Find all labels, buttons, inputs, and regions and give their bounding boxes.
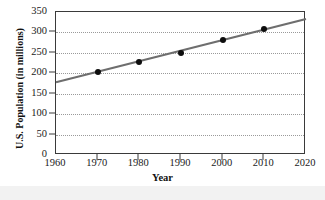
y-tick-label-200: 200	[31, 67, 47, 78]
x-tick-mark-1980	[138, 154, 139, 160]
x-tick-mark-2000	[221, 154, 222, 160]
y-axis: 050100150200250300350	[0, 0, 55, 200]
data-point	[261, 26, 267, 32]
plot-area	[55, 11, 305, 154]
data-point	[136, 59, 142, 65]
x-tick-mark-1970	[96, 154, 97, 160]
data-point	[95, 69, 101, 75]
bottom-band	[0, 186, 325, 200]
y-tick-label-250: 250	[31, 47, 47, 58]
x-axis-title: Year	[0, 172, 325, 183]
y-tick-label-100: 100	[31, 108, 47, 119]
y-tick-label-350: 350	[31, 6, 47, 17]
y-tick-label-50: 50	[37, 128, 48, 139]
x-tick-label-1960: 1960	[45, 157, 66, 168]
x-tick-mark-2010	[263, 154, 264, 160]
y-tick-label-300: 300	[31, 26, 47, 37]
x-tick-mark-1990	[180, 154, 181, 160]
trend-line	[56, 12, 306, 155]
data-layer	[56, 12, 304, 153]
y-tick-label-150: 150	[31, 87, 47, 98]
data-point	[178, 50, 184, 56]
data-point	[220, 37, 226, 43]
x-tick-label-2020: 2020	[295, 157, 316, 168]
chart-figure: U.S. Population (in millions) 0501001502…	[0, 0, 325, 200]
